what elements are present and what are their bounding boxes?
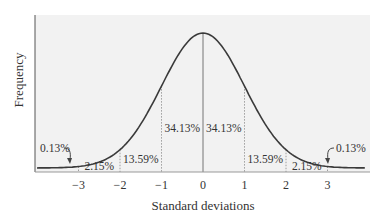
region-label: 13.59% (123, 153, 159, 165)
x-tick-label: 0 (200, 178, 206, 192)
x-tick-label: 3 (325, 178, 331, 192)
region-label: 2.15% (84, 160, 114, 172)
x-tick-label: 2 (283, 178, 289, 192)
plot-background (35, 15, 370, 172)
y-axis-title: Frequency (11, 52, 26, 107)
x-tick-label: −2 (114, 178, 127, 192)
region-label: 13.59% (248, 153, 284, 165)
x-tick-labels: −3−2−10123 (72, 178, 330, 192)
region-label: 34.13% (206, 122, 242, 134)
region-label: 0.13% (336, 142, 366, 154)
x-tick-label: −1 (155, 178, 168, 192)
region-label: 34.13% (165, 122, 201, 134)
x-tick-label: 1 (242, 178, 248, 192)
normal-distribution-chart: −3−2−10123 0.13%2.15%13.59%34.13%34.13%1… (0, 0, 390, 219)
x-tick-label: −3 (72, 178, 85, 192)
x-axis-title: Standard deviations (152, 198, 255, 213)
region-label: 2.15% (292, 160, 322, 172)
